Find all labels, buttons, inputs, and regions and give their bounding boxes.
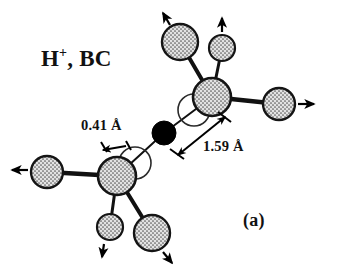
dimension-displacement-measure [103,146,126,150]
species-site: , BC [67,46,111,71]
dimension-bond-length-extension-b [170,149,184,159]
species-element: H [41,46,59,71]
atom-neighbor-lower-mid [97,214,123,240]
atom-neighbor-lower-left [31,156,63,188]
atom-neighbor-lower-right [134,215,170,251]
arrow-neighbor-lower-right [163,252,172,263]
atom-neighbor-upper-right [263,88,295,120]
atom-neighbor-upper-mid [209,35,235,61]
crystal-structure-diagram [0,0,340,273]
species-label: H+, BC [41,46,112,72]
atom-hydrogen-bond-center [152,121,176,145]
atom-host-lower [98,157,136,195]
arrow-neighbor-lower-mid [102,244,104,257]
atom-host-upper [193,78,231,116]
dimension-label-bond-length: 1.59 Å [203,138,244,155]
panel-label: (a) [243,210,265,231]
arrow-neighbor-upper-left [163,13,170,25]
dimension-label-displacement: 0.41 Å [81,117,122,134]
atom-neighbor-upper-left [162,24,198,60]
figure-panel: H+, BC 0.41 Å 1.59 Å (a) [0,0,340,273]
